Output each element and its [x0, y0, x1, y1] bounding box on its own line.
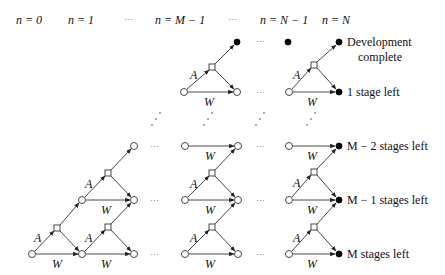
state-labels: Development complete 1 stage left M − 2 …	[347, 35, 428, 261]
state-node	[181, 89, 188, 96]
edge-label-advance: A	[84, 177, 93, 191]
edge-label-wait: W	[205, 203, 216, 217]
label-m-stages-left: M stages left	[347, 247, 410, 261]
edge-label-wait: W	[307, 149, 318, 163]
header-n0: n = 0	[16, 13, 42, 27]
svg-text:···: ···	[256, 87, 265, 97]
bottom-right-group: A A W W W	[286, 143, 343, 272]
bottom-middle-group: A A W W W	[182, 143, 242, 272]
header-n-n: n = N	[322, 13, 351, 27]
svg-text:···: ···	[150, 249, 159, 259]
svg-text:···: ···	[256, 249, 265, 259]
header-n-n-minus-1: n = N − 1	[260, 13, 308, 27]
complete-node	[336, 39, 342, 45]
complete-node	[234, 39, 240, 45]
header-ellipsis-2: ···	[228, 14, 237, 24]
edge-label-advance: A	[84, 231, 93, 245]
edge-label-wait: W	[52, 257, 63, 271]
label-m-minus-1-stages-left: M − 1 stages left	[347, 193, 428, 207]
header-ellipsis-1: ···	[124, 14, 133, 24]
edge-label-wait: W	[101, 203, 112, 217]
edge-label-advance: A	[189, 68, 198, 82]
label-1-stage-left: 1 stage left	[347, 85, 400, 99]
complete-node	[285, 39, 291, 45]
edge-label-wait: W	[205, 257, 216, 271]
edge-label-wait: W	[205, 149, 216, 163]
svg-text:···: ···	[256, 36, 265, 46]
edge-label-advance: A	[33, 231, 42, 245]
edge-label-advance: A	[292, 176, 301, 190]
header-n1: n = 1	[68, 13, 94, 27]
edge-label-wait: W	[307, 257, 318, 271]
label-complete: complete	[358, 50, 402, 64]
stage-headers: n = 0 n = 1 ··· n = M − 1 ··· n = N − 1 …	[16, 13, 351, 27]
label-m-minus-2-stages-left: M − 2 stages left	[347, 139, 428, 153]
edge-label-wait: W	[101, 257, 112, 271]
edge-label-advance: A	[292, 68, 301, 82]
label-development: Development	[347, 35, 412, 49]
edge-label-advance: A	[189, 231, 198, 245]
svg-text:···: ···	[256, 141, 265, 151]
svg-text:···: ···	[256, 195, 265, 205]
bottom-left-lattice: A A A W W W	[29, 143, 138, 272]
edge-label-wait: W	[204, 95, 215, 109]
diagonal-ellipses	[151, 112, 316, 126]
svg-text:···: ···	[150, 195, 159, 205]
final-stage-node	[336, 89, 342, 95]
state-node	[286, 89, 293, 96]
edge-label-wait: W	[307, 203, 318, 217]
header-n-m-minus-1: n = M − 1	[155, 13, 205, 27]
edge-label-wait: W	[307, 95, 318, 109]
decision-node	[209, 64, 215, 70]
edge-label-advance: A	[292, 231, 301, 245]
state-node	[234, 89, 241, 96]
decision-tree-diagram: n = 0 n = 1 ··· n = M − 1 ··· n = N − 1 …	[0, 0, 445, 275]
top-middle-group: A W	[181, 39, 241, 109]
top-right-group: A W	[286, 39, 343, 109]
edge-label-advance: A	[189, 177, 198, 191]
decision-node	[311, 62, 317, 68]
svg-text:···: ···	[150, 141, 159, 151]
